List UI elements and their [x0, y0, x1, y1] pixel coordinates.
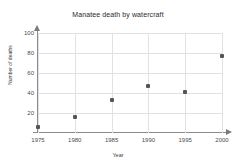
data-point-marker	[183, 90, 187, 94]
gridline-horizontal	[38, 93, 222, 94]
x-axis-tick-label: 1975	[23, 137, 53, 143]
x-axis-title: Year	[0, 152, 236, 158]
gridline-horizontal	[38, 73, 222, 74]
x-axis-tick-label: 1995	[170, 137, 200, 143]
chart-title: Manatee death by watercraft	[0, 11, 236, 18]
x-axis-arrow-icon	[226, 129, 232, 135]
gridline-horizontal	[38, 113, 222, 114]
x-axis-tick-label: 1980	[60, 137, 90, 143]
x-axis-tick-label: 1985	[97, 137, 127, 143]
x-axis-tick-label: 2000	[207, 137, 236, 143]
plot-area	[38, 33, 222, 133]
gridline-horizontal	[38, 33, 222, 34]
gridline-horizontal	[38, 53, 222, 54]
gridline-vertical	[148, 33, 149, 133]
data-point-marker	[73, 115, 77, 119]
data-point-marker	[146, 84, 150, 88]
data-point-marker	[36, 125, 40, 129]
y-axis-arrow-icon	[34, 25, 40, 31]
y-axis-tick-label: 100	[8, 30, 34, 36]
scatter-chart: Manatee death by watercraft 20406080100 …	[0, 0, 236, 168]
x-axis-tick-label: 1990	[133, 137, 163, 143]
gridline-vertical	[112, 33, 113, 133]
y-axis-title: Number of deaths	[7, 37, 13, 93]
data-point-marker	[220, 54, 224, 58]
data-point-marker	[110, 98, 114, 102]
gridline-vertical	[38, 33, 39, 133]
y-axis-tick-label: 20	[8, 110, 34, 116]
gridline-vertical	[185, 33, 186, 133]
gridline-vertical	[222, 33, 223, 133]
